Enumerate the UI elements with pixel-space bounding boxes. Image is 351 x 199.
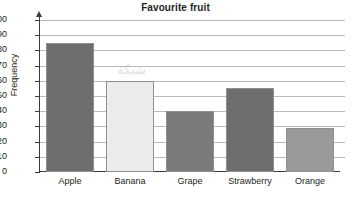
x-tick-label-banana: Banana — [100, 176, 160, 186]
y-tick-label: 60 — [0, 76, 7, 85]
y-tick-label: 90 — [0, 30, 7, 39]
bar-strawberry[interactable] — [226, 88, 274, 172]
chart-title: Favourite fruit — [0, 2, 351, 13]
bar-apple[interactable] — [46, 43, 94, 172]
x-tick-label-apple: Apple — [40, 176, 100, 186]
y-tick-label: 50 — [0, 91, 7, 100]
x-tick-label-grape: Grape — [160, 176, 220, 186]
bar-banana[interactable] — [106, 81, 154, 172]
y-tick-label: 80 — [0, 45, 7, 54]
y-tick-label: 40 — [0, 106, 7, 115]
y-tick-label: 70 — [0, 61, 7, 70]
y-tick-label: 10 — [0, 152, 7, 161]
bar-orange[interactable] — [286, 128, 334, 172]
y-tick-label: 30 — [0, 121, 7, 130]
y-tick-mark — [35, 172, 40, 173]
y-tick-label: 0 — [0, 167, 7, 176]
y-axis-label: Frequency — [9, 35, 19, 115]
y-tick-label: 20 — [0, 137, 7, 146]
bar-chart: Favourite fruit Frequency شبكة معلومات 0… — [0, 0, 351, 199]
bar-grape[interactable] — [166, 111, 214, 172]
x-tick-label-strawberry: Strawberry — [220, 176, 280, 186]
y-tick-label: 100 — [0, 15, 7, 24]
plot-area — [40, 20, 340, 172]
x-tick-label-orange: Orange — [280, 176, 340, 186]
